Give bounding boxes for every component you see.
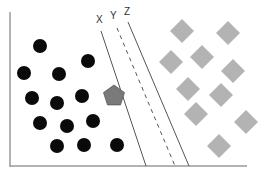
circle-point <box>33 116 47 130</box>
diamond-point <box>209 83 233 107</box>
class-b-diamonds <box>159 19 258 158</box>
diamond-point <box>184 102 208 126</box>
line-y <box>117 28 175 166</box>
circle-point <box>81 54 95 68</box>
line-labels: XYZ <box>96 6 130 25</box>
diamond-point <box>221 59 245 83</box>
circle-point <box>77 138 91 152</box>
diamond-point <box>159 50 183 74</box>
diamond-point <box>207 134 231 158</box>
label-y: Y <box>110 10 117 21</box>
circle-point <box>25 91 39 105</box>
unknown-point-pentagon <box>104 85 125 105</box>
label-z: Z <box>124 6 130 17</box>
circle-point <box>52 67 66 81</box>
diamond-point <box>170 19 194 43</box>
circle-point <box>17 66 31 80</box>
circle-point <box>50 96 64 110</box>
svm-diagram: XYZ <box>0 0 269 173</box>
circle-point <box>33 39 47 53</box>
circle-point <box>75 89 89 103</box>
circle-point <box>60 119 74 133</box>
diamond-point <box>216 21 240 45</box>
diamond-point <box>176 77 200 101</box>
circle-point <box>50 139 64 153</box>
diamond-point <box>190 45 214 69</box>
line-z <box>128 22 189 166</box>
circle-point <box>110 138 124 152</box>
diamond-point <box>234 110 258 134</box>
circle-point <box>86 114 100 128</box>
pentagon-point <box>104 85 125 105</box>
label-x: X <box>96 14 103 25</box>
